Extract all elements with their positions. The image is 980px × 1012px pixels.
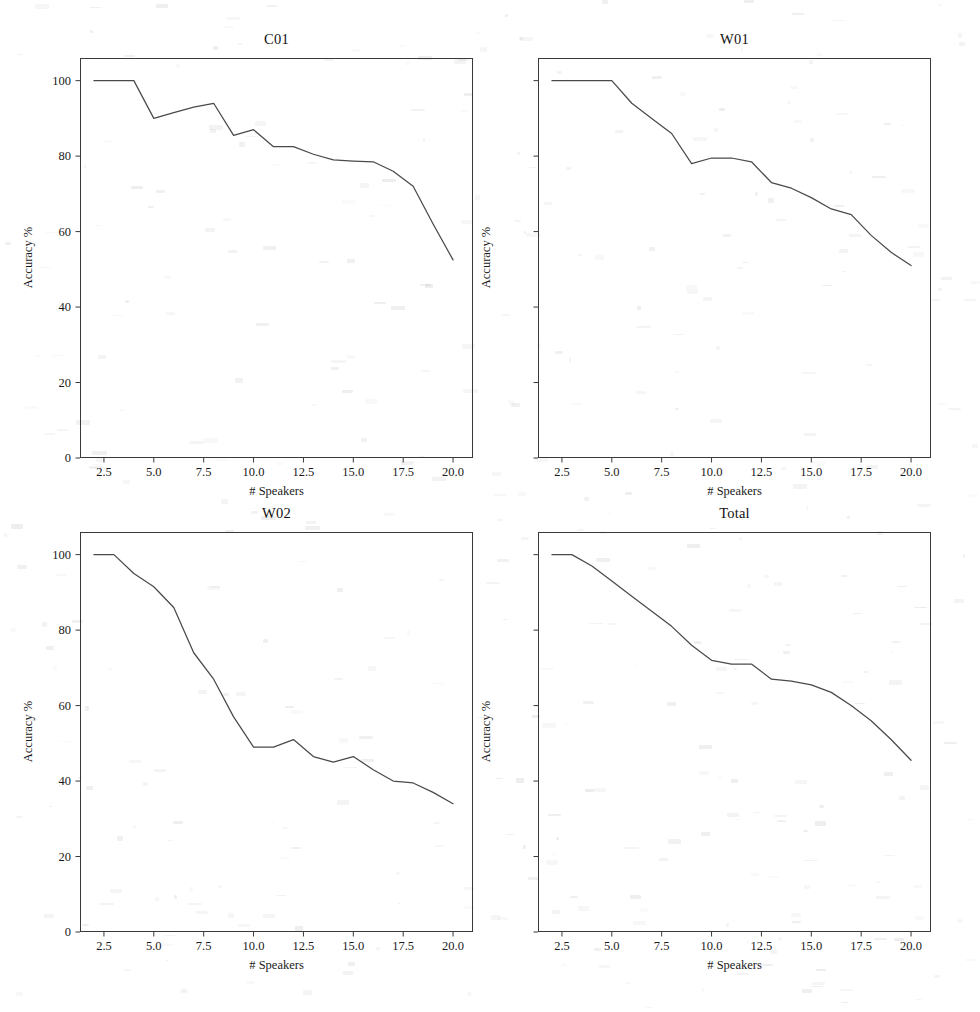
data-series-line-c01 xyxy=(94,81,453,260)
x-tick-label: 17.5 xyxy=(850,939,872,954)
y-tick-label: 100 xyxy=(18,547,71,562)
x-tick-label: 2.5 xyxy=(96,465,112,480)
x-axis-label-total: # Speakers xyxy=(538,958,931,973)
chart-panel-total: Total2.55.07.510.012.515.017.520.0# Spea… xyxy=(476,506,931,980)
y-tick-label: 80 xyxy=(18,149,71,164)
y-axis-label-total: Accuracy % xyxy=(479,696,494,768)
x-tick-label: 15.0 xyxy=(800,939,822,954)
y-tick-label: 20 xyxy=(18,375,71,390)
data-series-line-w01 xyxy=(552,81,911,266)
x-tick-label: 12.5 xyxy=(750,939,772,954)
x-tick-label: 17.5 xyxy=(392,939,414,954)
y-tick-label: 100 xyxy=(18,73,71,88)
y-tick-label: 0 xyxy=(18,451,71,466)
x-tick-label: 20.0 xyxy=(900,939,922,954)
x-tick-label: 10.0 xyxy=(243,939,265,954)
x-tick-label: 15.0 xyxy=(800,465,822,480)
x-tick-label: 5.0 xyxy=(604,465,620,480)
x-tick-label: 7.5 xyxy=(654,465,670,480)
x-tick-label: 12.5 xyxy=(292,939,314,954)
figure-canvas: C012.55.07.510.012.515.017.520.002040608… xyxy=(0,0,980,1012)
x-tick-label: 20.0 xyxy=(900,465,922,480)
chart-panel-w01: W012.55.07.510.012.515.017.520.0# Speake… xyxy=(476,32,931,506)
y-tick-label: 0 xyxy=(18,925,71,940)
x-tick-label: 5.0 xyxy=(146,939,162,954)
plot-graphics-c01 xyxy=(18,32,483,506)
x-tick-label: 17.5 xyxy=(850,465,872,480)
y-axis-label-w02: Accuracy % xyxy=(21,696,36,768)
x-tick-label: 20.0 xyxy=(442,939,464,954)
plot-graphics-w02 xyxy=(18,506,483,980)
x-tick-label: 15.0 xyxy=(342,465,364,480)
x-tick-label: 7.5 xyxy=(196,939,212,954)
x-tick-label: 2.5 xyxy=(96,939,112,954)
x-tick-label: 10.0 xyxy=(243,465,265,480)
x-tick-label: 7.5 xyxy=(196,465,212,480)
x-tick-label: 10.0 xyxy=(701,465,723,480)
y-tick-label: 40 xyxy=(18,774,71,789)
chart-panel-w02: W022.55.07.510.012.515.017.520.002040608… xyxy=(18,506,473,980)
chart-panel-c01: C012.55.07.510.012.515.017.520.002040608… xyxy=(18,32,473,506)
x-tick-label: 12.5 xyxy=(750,465,772,480)
x-axis-label-c01: # Speakers xyxy=(80,484,473,499)
plot-graphics-total xyxy=(476,506,941,980)
x-tick-label: 2.5 xyxy=(554,939,570,954)
data-series-line-w02 xyxy=(94,555,453,804)
y-tick-label: 40 xyxy=(18,300,71,315)
x-tick-label: 2.5 xyxy=(554,465,570,480)
x-tick-label: 5.0 xyxy=(604,939,620,954)
x-tick-label: 12.5 xyxy=(292,465,314,480)
y-tick-label: 80 xyxy=(18,623,71,638)
x-tick-label: 15.0 xyxy=(342,939,364,954)
x-tick-label: 5.0 xyxy=(146,465,162,480)
y-axis-label-c01: Accuracy % xyxy=(21,222,36,294)
x-tick-label: 10.0 xyxy=(701,939,723,954)
x-tick-label: 17.5 xyxy=(392,465,414,480)
y-axis-label-w01: Accuracy % xyxy=(479,222,494,294)
plot-graphics-w01 xyxy=(476,32,941,506)
y-tick-label: 20 xyxy=(18,849,71,864)
x-tick-label: 7.5 xyxy=(654,939,670,954)
data-series-line-total xyxy=(552,555,911,761)
x-tick-label: 20.0 xyxy=(442,465,464,480)
x-axis-label-w02: # Speakers xyxy=(80,958,473,973)
x-axis-label-w01: # Speakers xyxy=(538,484,931,499)
